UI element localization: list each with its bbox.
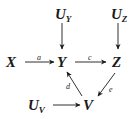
edge-label-d: d: [66, 83, 70, 91]
node-u-v: UV: [28, 98, 45, 115]
node-u-z-subscript: Z: [122, 14, 128, 24]
edge-label-e: e: [109, 86, 113, 94]
node-u-y: UY: [55, 7, 71, 24]
node-u-v-label: U: [28, 97, 39, 113]
node-u-y-label: U: [55, 6, 66, 22]
node-y: Y: [57, 55, 66, 70]
node-v-label: V: [83, 97, 93, 113]
node-u-z-label: U: [111, 6, 122, 22]
node-z: Z: [112, 55, 121, 70]
node-u-y-subscript: Y: [66, 14, 72, 24]
node-x-label: X: [6, 54, 16, 70]
node-u-v-subscript: V: [39, 105, 45, 115]
edge-label-c: c: [88, 54, 92, 62]
edge-label-a: a: [37, 54, 41, 62]
node-x: X: [6, 55, 16, 70]
causal-diagram: UY UZ X Y Z UV V a c d e: [0, 0, 133, 119]
node-y-label: Y: [57, 54, 66, 70]
node-u-z: UZ: [111, 7, 127, 24]
node-v: V: [83, 98, 93, 113]
node-z-label: Z: [112, 54, 121, 70]
